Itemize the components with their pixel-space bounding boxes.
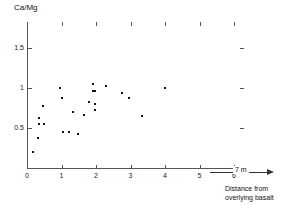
x-tick-label-3: 3	[121, 172, 141, 180]
data-point	[68, 131, 70, 133]
x-tick-top-2	[96, 22, 97, 26]
y-tick-right-0.5	[240, 128, 244, 129]
data-point	[32, 151, 34, 153]
data-point	[88, 101, 90, 103]
data-point	[77, 133, 79, 135]
x-tick-top-4	[165, 22, 166, 26]
data-point	[121, 92, 123, 94]
x-tick-top-1	[62, 22, 63, 26]
y-tick-right-1.5	[240, 48, 244, 49]
y-axis-line	[27, 22, 28, 168]
x-tick-label-4: 4	[155, 172, 175, 180]
data-point	[72, 111, 74, 113]
data-point	[141, 115, 143, 117]
data-point	[105, 85, 107, 87]
data-point	[38, 117, 40, 119]
x-tick-0	[27, 165, 28, 169]
data-point	[59, 87, 61, 89]
x-tick-top-3	[131, 22, 132, 26]
data-point	[37, 137, 39, 139]
scale-bar-arrow-icon	[267, 169, 274, 175]
y-tick-right-1	[240, 88, 244, 89]
data-point	[43, 123, 45, 125]
data-point	[61, 97, 63, 99]
y-tick-1.5	[28, 48, 32, 49]
x-tick-1	[62, 165, 63, 169]
data-point	[62, 131, 64, 133]
scatter-plot-figure: Ca/Mg 01234560.511.5 7 m Distance from o…	[0, 0, 288, 205]
data-point	[83, 114, 85, 116]
x-tick-label-0: 0	[17, 172, 37, 180]
data-point	[94, 103, 96, 105]
x-tick-top-6	[234, 22, 235, 26]
x-axis-title: Distance from overlying basalt	[225, 185, 274, 202]
y-tick-label-1: 1	[2, 84, 24, 92]
y-tick-0.5	[28, 128, 32, 129]
y-tick-label-0.5: 0.5	[2, 124, 24, 132]
x-tick-5	[200, 165, 201, 169]
x-tick-2	[96, 165, 97, 169]
x-tick-top-5	[200, 22, 201, 26]
x-tick-top-0	[27, 22, 28, 26]
data-point	[94, 90, 96, 92]
data-point	[164, 87, 166, 89]
y-axis-title: Ca/Mg	[14, 3, 38, 12]
scale-bar: 7 m	[210, 166, 280, 178]
y-tick-label-1.5: 1.5	[2, 44, 24, 52]
x-tick-label-5: 5	[190, 172, 210, 180]
data-point	[92, 83, 94, 85]
x-tick-label-2: 2	[86, 172, 106, 180]
x-axis-title-line-2: overlying basalt	[225, 194, 274, 203]
x-tick-label-1: 1	[52, 172, 72, 180]
x-tick-4	[165, 165, 166, 169]
data-point	[128, 97, 130, 99]
data-point	[94, 109, 96, 111]
y-tick-1	[28, 88, 32, 89]
scale-bar-label: 7 m	[233, 166, 249, 174]
x-axis-title-line-1: Distance from	[225, 185, 274, 194]
data-point	[42, 105, 44, 107]
x-tick-3	[131, 165, 132, 169]
data-point	[38, 123, 40, 125]
